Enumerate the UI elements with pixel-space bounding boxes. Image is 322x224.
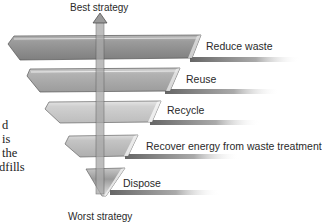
side-text-line-3: the [2,146,17,161]
tier-reduce-waste [8,35,201,60]
tier-label-reduce-waste: Reduce waste [206,40,273,52]
worst-strategy-label: Worst strategy [68,211,132,222]
side-text-line-4: dfills [0,160,25,175]
tier-label-dispose: Dispose [123,177,161,189]
side-text-line-1: d [2,118,8,133]
tier-label-recover-energy: Recover energy from waste treatment [146,140,322,152]
tier-label-recycle: Recycle [167,104,204,116]
tier-label-reuse: Reuse [186,73,216,85]
best-strategy-label: Best strategy [70,2,128,13]
side-text-line-2: is [2,132,10,147]
